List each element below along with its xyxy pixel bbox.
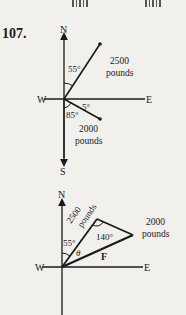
angle-arc-55 [64,83,73,86]
magnitude-2000-b: 2000 [146,217,165,227]
angle-55-b: 55° [63,238,76,248]
magnitude-2500: 2500 [110,56,129,66]
label-east-2: E [144,262,150,273]
angle-theta: θ [76,248,81,258]
angle-arc-85 [64,103,71,108]
angle-5: 5° [82,102,91,112]
magnitude-2500-unit: pounds [106,68,134,78]
label-north: N [60,24,67,35]
vector-2500-endpoint [98,42,102,46]
magnitude-2000-unit: pounds [75,136,103,146]
angle-55: 55° [68,64,81,74]
label-south: S [60,166,66,177]
diagram-2: N W E 2500 pounds 55° 140° θ F 2000 poun… [35,189,170,315]
vector-diagrams: N W E S 55° 5° 85° 2500 pounds 2000 poun… [0,0,186,315]
magnitude-2000: 2000 [79,124,98,134]
label-east: E [146,94,152,105]
angle-arc-55-b [62,253,70,256]
angle-140: 140° [96,232,114,242]
resultant-label: F [101,251,107,262]
label-west: W [37,94,47,105]
magnitude-2000-b-unit: pounds [142,229,170,239]
label-west-2: W [35,262,45,273]
vector-2000-endpoint [98,117,102,121]
diagram-1: N W E S 55° 5° 85° 2500 pounds 2000 poun… [37,24,152,177]
label-north-2: N [58,189,65,200]
angle-85: 85° [66,110,79,120]
